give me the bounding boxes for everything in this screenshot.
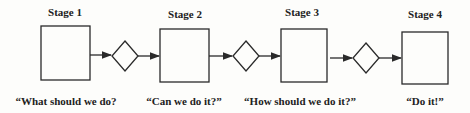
decision-diamond-1	[112, 41, 138, 71]
stage-3-question: “How should we do it?”	[244, 95, 356, 107]
stage-1-question: “What should we do?	[15, 95, 116, 107]
stage-2-box	[160, 29, 209, 82]
stage-1-box	[41, 26, 90, 80]
stage-4-question: “Do it!”	[406, 95, 444, 107]
decision-diamond-2	[233, 41, 259, 71]
stage-4-box	[402, 32, 448, 84]
stage-2-question: “Can we do it?”	[146, 95, 221, 107]
decision-diamond-3	[353, 43, 379, 73]
stage-4-title: Stage 4	[408, 8, 442, 20]
stage-3-title: Stage 3	[285, 6, 319, 18]
stage-process-diagram: Stage 1 Stage 2 Stage 3 Stage 4 “What sh…	[0, 0, 470, 113]
stage-1-title: Stage 1	[48, 6, 82, 18]
stage-2-title: Stage 2	[168, 8, 202, 20]
stage-3-box	[281, 29, 327, 82]
